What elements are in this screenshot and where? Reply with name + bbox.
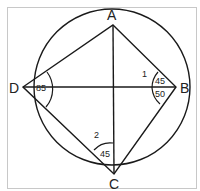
point-label-d: D — [9, 80, 19, 96]
angle-value-d: 85 — [36, 83, 46, 93]
point-label-b: B — [180, 80, 189, 96]
angle-value-b-upper: 45 — [155, 76, 165, 86]
diagram-canvas: A B C D 85 45 50 45 1 2 — [0, 0, 200, 191]
angle-marker-1: 1 — [142, 69, 147, 79]
diagonal-ac — [113, 25, 114, 174]
angle-value-c: 45 — [100, 149, 110, 159]
geometry-diagram: A B C D 85 45 50 45 1 2 — [0, 0, 200, 191]
angle-marker-2: 2 — [94, 130, 99, 140]
angle-arc-d — [46, 72, 53, 107]
point-label-c: C — [109, 176, 119, 191]
angle-value-b-lower: 50 — [155, 89, 165, 99]
point-label-a: A — [107, 7, 117, 23]
